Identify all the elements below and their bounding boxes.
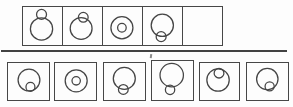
- large-circle: [18, 69, 40, 91]
- answer-option-2[interactable]: [54, 62, 97, 101]
- empty-cell: [183, 7, 222, 45]
- large-circle: [30, 18, 52, 40]
- large-circle: [65, 70, 87, 92]
- answer-option-3[interactable]: [103, 62, 146, 101]
- circle-figure-centered: [55, 63, 96, 100]
- large-circle: [113, 67, 135, 89]
- small-circle: [118, 23, 127, 32]
- small-circle: [72, 77, 80, 85]
- problem-strip: [22, 6, 223, 46]
- circle-figure-bottom-edge: [143, 7, 182, 45]
- large-circle: [151, 14, 173, 36]
- large-circle: [70, 18, 92, 40]
- circle-figure-bottom-edge: [104, 63, 145, 100]
- answer-option-5[interactable]: [199, 62, 240, 101]
- problem-cell-3: [103, 7, 143, 45]
- answer-option-6[interactable]: [246, 62, 289, 101]
- puzzle-canvas: [0, 0, 293, 107]
- circle-figure-inside-top: [200, 63, 239, 100]
- answer-option-4[interactable]: [151, 60, 194, 101]
- circle-figure-outside-bottom: [152, 61, 193, 100]
- large-circle: [111, 17, 133, 39]
- circle-figure-outside-top: [23, 7, 62, 45]
- divider-line: [1, 50, 287, 52]
- large-circle: [160, 63, 183, 86]
- circle-figure-inside-bottom: [8, 63, 49, 100]
- problem-cell-empty: [183, 7, 222, 45]
- small-circle: [214, 68, 224, 78]
- problem-cell-4: [143, 7, 183, 45]
- circle-figure-centered: [103, 7, 142, 45]
- problem-cell-1: [23, 7, 63, 45]
- problem-cell-2: [63, 7, 103, 45]
- scan-speck: [150, 54, 152, 58]
- circle-figure-inside-bottom: [247, 63, 288, 100]
- small-circle: [26, 82, 35, 91]
- answer-option-1[interactable]: [7, 62, 50, 101]
- circle-figure-top-edge: [63, 7, 102, 45]
- large-circle: [207, 69, 229, 91]
